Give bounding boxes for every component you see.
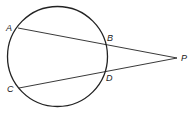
secant-ap — [18, 28, 177, 58]
label-p: P — [181, 53, 187, 63]
label-b: B — [107, 33, 113, 43]
label-c: C — [7, 84, 14, 94]
label-a: A — [5, 23, 12, 33]
secant-diagram: A B C D P — [0, 0, 193, 115]
label-d: D — [106, 73, 113, 83]
circle — [8, 7, 108, 107]
secant-cp — [19, 58, 177, 88]
